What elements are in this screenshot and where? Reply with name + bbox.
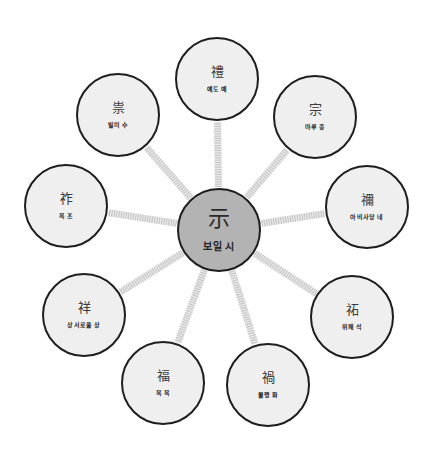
node-hanja: 禍	[262, 371, 275, 385]
node-hanja: 禰	[361, 193, 374, 207]
node-reading: 복 조	[59, 211, 74, 220]
center-node[interactable]: 示 보일 시	[177, 188, 261, 272]
node-bok[interactable]: 福 복 복	[121, 341, 205, 425]
node-hanja: 祏	[346, 303, 359, 317]
radial-diagram: 示 보일 시 禮 예도 예 宗 마루 종 禰 아비사당 네 祏 위패 석 禍 불…	[0, 0, 433, 463]
node-reading: 복 복	[156, 388, 171, 397]
node-hwa[interactable]: 禍 불행 화	[226, 343, 310, 427]
node-sang[interactable]: 祥 상서로울 상	[42, 273, 126, 357]
node-jong[interactable]: 宗 마루 종	[273, 75, 357, 159]
node-reading: 위패 석	[342, 322, 363, 331]
node-hanja: 禮	[211, 65, 224, 79]
node-ye[interactable]: 禮 예도 예	[175, 37, 259, 121]
node-reading: 예도 예	[207, 84, 228, 93]
node-hanja: 祥	[78, 301, 91, 315]
node-jo[interactable]: 祚 복 조	[24, 164, 108, 248]
node-hanja: 福	[157, 369, 170, 383]
node-reading: 빌미 수	[108, 120, 129, 129]
node-ne[interactable]: 禰 아비사당 네	[325, 165, 409, 249]
node-hanja: 祟	[112, 101, 125, 115]
node-hanja: 宗	[309, 103, 322, 117]
center-reading: 보일 시	[203, 238, 234, 253]
node-reading: 마루 종	[305, 122, 326, 131]
node-reading: 불행 화	[258, 390, 279, 399]
node-reading: 상서로울 상	[67, 320, 100, 329]
node-su[interactable]: 祟 빌미 수	[76, 73, 160, 157]
connector	[108, 213, 176, 224]
center-hanja: 示	[208, 207, 230, 231]
node-reading: 아비사당 네	[350, 212, 383, 221]
node-seok[interactable]: 祏 위패 석	[310, 275, 394, 359]
node-hanja: 祚	[60, 192, 73, 206]
